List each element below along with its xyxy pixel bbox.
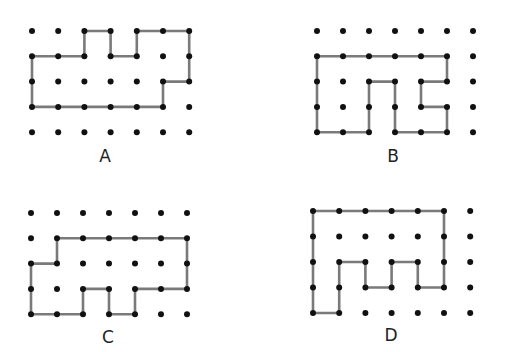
grid-dot [441, 234, 447, 240]
grid-dot [28, 210, 34, 216]
grid-dot [340, 129, 346, 135]
grid-dot [336, 234, 342, 240]
grid-dot [81, 53, 87, 59]
grid-dot [392, 79, 398, 85]
grid-dot [470, 79, 476, 85]
grid-dot [108, 28, 114, 34]
dot-grid-diagram [0, 0, 513, 352]
grid-dot [184, 311, 190, 317]
grid-dot [186, 79, 192, 85]
grid-dot [106, 311, 112, 317]
grid-dot [29, 53, 35, 59]
figure-d [310, 208, 473, 316]
grid-dot [108, 104, 114, 110]
figure-b-label: B [387, 148, 399, 165]
grid-dot [467, 208, 473, 214]
grid-dot [106, 286, 112, 292]
grid-dot [418, 104, 424, 110]
grid-dot [134, 129, 140, 135]
grid-dot [28, 261, 34, 267]
grid-dot [314, 129, 320, 135]
grid-dot [362, 285, 368, 291]
grid-dot [310, 310, 316, 316]
grid-dot [158, 210, 164, 216]
grid-dot [340, 104, 346, 110]
grid-dot [336, 208, 342, 214]
grid-dot [55, 104, 61, 110]
grid-dot [470, 129, 476, 135]
grid-dot [132, 210, 138, 216]
grid-dot [160, 28, 166, 34]
grid-dot [314, 104, 320, 110]
grid-dot [55, 79, 61, 85]
grid-dot [184, 286, 190, 292]
grid-dot [81, 104, 87, 110]
figure-d-dot-grid [310, 208, 473, 316]
grid-dot [470, 53, 476, 59]
figure-b [314, 28, 476, 135]
grid-dot [392, 104, 398, 110]
grid-dot [55, 129, 61, 135]
grid-dot [184, 261, 190, 267]
grid-dot [366, 104, 372, 110]
grid-dot [470, 28, 476, 34]
grid-dot [441, 259, 447, 265]
grid-dot [80, 235, 86, 241]
grid-dot [392, 129, 398, 135]
grid-dot [415, 285, 421, 291]
grid-dot [186, 104, 192, 110]
grid-dot [28, 235, 34, 241]
grid-dot [366, 79, 372, 85]
grid-dot [106, 235, 112, 241]
grid-dot [362, 208, 368, 214]
grid-dot [158, 286, 164, 292]
grid-dot [389, 310, 395, 316]
grid-dot [444, 129, 450, 135]
grid-dot [80, 311, 86, 317]
grid-dot [441, 285, 447, 291]
grid-dot [160, 53, 166, 59]
figure-a [29, 28, 192, 135]
grid-dot [132, 261, 138, 267]
grid-dot [132, 235, 138, 241]
grid-dot [310, 285, 316, 291]
grid-dot [389, 234, 395, 240]
grid-dot [336, 285, 342, 291]
grid-dot [134, 28, 140, 34]
grid-dot [80, 286, 86, 292]
grid-dot [134, 79, 140, 85]
grid-dot [160, 129, 166, 135]
grid-dot [80, 210, 86, 216]
figure-c-label: C [102, 329, 114, 346]
grid-dot [389, 259, 395, 265]
grid-dot [132, 311, 138, 317]
grid-dot [54, 261, 60, 267]
figure-a-outline [32, 31, 189, 107]
grid-dot [28, 311, 34, 317]
grid-dot [441, 208, 447, 214]
grid-dot [418, 129, 424, 135]
grid-dot [444, 28, 450, 34]
grid-dot [186, 28, 192, 34]
grid-dot [444, 104, 450, 110]
grid-dot [366, 53, 372, 59]
grid-dot [340, 28, 346, 34]
grid-dot [29, 129, 35, 135]
grid-dot [132, 286, 138, 292]
figure-a-label: A [99, 148, 111, 165]
grid-dot [186, 53, 192, 59]
grid-dot [134, 53, 140, 59]
grid-dot [158, 311, 164, 317]
figure-d-label: D [384, 327, 397, 344]
grid-dot [55, 28, 61, 34]
grid-dot [80, 261, 86, 267]
grid-dot [158, 261, 164, 267]
grid-dot [362, 259, 368, 265]
grid-dot [467, 285, 473, 291]
grid-dot [108, 129, 114, 135]
grid-dot [340, 79, 346, 85]
figure-c-outline [31, 238, 187, 314]
grid-dot [415, 208, 421, 214]
grid-dot [392, 53, 398, 59]
grid-dot [418, 28, 424, 34]
